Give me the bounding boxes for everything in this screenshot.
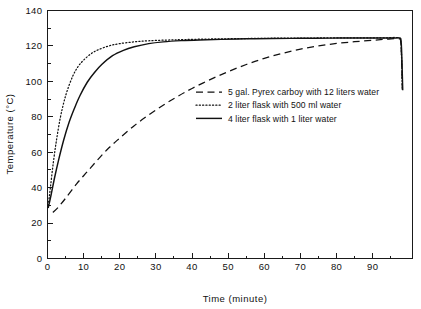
series-line-1: [53, 39, 402, 213]
y-axis-title: Temperature (°C): [4, 94, 15, 175]
y-tick-label: 40: [31, 182, 42, 193]
legend-label-2: 2 liter flask with 500 ml water: [228, 100, 341, 110]
chart-legend: 5 gal. Pyrex carboy with 12 liters water…: [196, 87, 379, 123]
x-axis-title: Time (minute): [203, 293, 268, 304]
series-line-2: [48, 37, 402, 205]
x-tick-label: 10: [78, 261, 89, 272]
y-tick-label: 100: [25, 76, 42, 87]
legend-label-1: 5 gal. Pyrex carboy with 12 liters water: [228, 87, 379, 97]
y-axis-ticks: [48, 11, 54, 259]
figure-container: 0102030405060708090 020406080100120140 T…: [0, 0, 421, 309]
y-tick-label: 60: [31, 147, 42, 158]
x-tick-label: 80: [331, 261, 342, 272]
x-tick-label: 90: [367, 261, 378, 272]
x-tick-label: 60: [259, 261, 270, 272]
x-tick-label: 70: [295, 261, 306, 272]
y-tick-label: 120: [25, 40, 42, 51]
x-tick-label: 40: [186, 261, 197, 272]
legend-label-3: 4 liter flask with 1 liter water: [228, 114, 337, 124]
y-tick-label: 20: [31, 217, 42, 228]
x-axis-tick-labels: 0102030405060708090: [45, 261, 379, 272]
x-axis-ticks: [48, 253, 391, 259]
data-curves: [48, 37, 403, 212]
x-tick-label: 20: [114, 261, 125, 272]
y-tick-label: 80: [31, 111, 42, 122]
x-tick-label: 50: [223, 261, 234, 272]
y-tick-label: 140: [25, 5, 42, 16]
x-tick-label: 30: [150, 261, 161, 272]
y-axis-tick-labels: 020406080100120140: [25, 5, 42, 264]
temperature-vs-time-line-chart: 0102030405060708090 020406080100120140 T…: [0, 0, 421, 309]
plot-box: [48, 11, 413, 259]
y-tick-label: 0: [37, 253, 43, 264]
plot-frame: [48, 11, 413, 259]
series-line-3: [48, 38, 403, 208]
x-tick-label: 0: [45, 261, 51, 272]
